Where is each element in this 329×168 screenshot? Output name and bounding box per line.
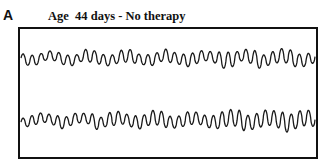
waveform-trace-1	[21, 49, 315, 69]
waveform-traces	[0, 0, 329, 168]
waveform-trace-2	[21, 110, 315, 133]
